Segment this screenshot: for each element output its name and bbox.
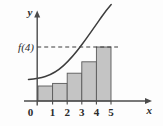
x-tick-label-1: 1: [50, 106, 56, 118]
y-axis-label: y: [26, 6, 33, 18]
riemann-bar: [82, 62, 97, 101]
x-tick-label-5: 5: [108, 106, 114, 118]
x-axis-label: x: [146, 104, 153, 116]
x-tick-label-0: 0: [28, 106, 34, 118]
riemann-sum-figure: 0 1 2 3 4 5 y x f(4): [0, 0, 163, 126]
x-tick-label-3: 3: [79, 106, 85, 118]
riemann-bar: [38, 86, 53, 101]
y-axis-arrowhead: [34, 11, 40, 18]
x-tick-label-4: 4: [94, 106, 100, 118]
figure-canvas: 0 1 2 3 4 5 y x f(4): [0, 0, 163, 126]
riemann-bar: [96, 47, 111, 101]
riemann-bar: [67, 73, 82, 101]
x-tick-label-2: 2: [64, 106, 70, 118]
f4-value-label: f(4): [18, 41, 34, 54]
riemann-bar: [53, 83, 68, 101]
